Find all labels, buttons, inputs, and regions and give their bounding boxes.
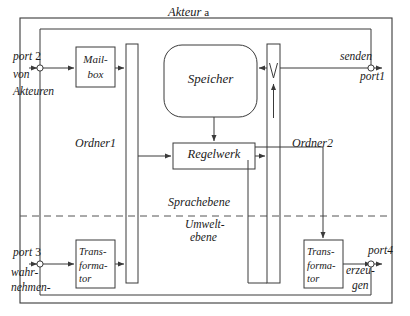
transformator-left-line1: Trans- (79, 246, 106, 257)
port2-action-line1: von (13, 68, 30, 80)
ordner1-bar (126, 44, 138, 283)
transformator-right-line2: forma- (307, 260, 336, 271)
port2-label: port2 (13, 50, 41, 62)
ordner2-funnel-marker (270, 63, 278, 78)
diagram-canvas: Akteura port2 von Akteuren Mail- box Spe… (0, 0, 410, 316)
port2-marker (37, 65, 43, 71)
port4-action-line2: gen (352, 279, 369, 291)
port3-label: port3 (13, 246, 41, 258)
port3-name-number: 3 (35, 246, 41, 258)
port3-action-line1: wahr- (11, 266, 38, 278)
mailbox-label-line1: Mail- (76, 54, 115, 66)
layer-upper-label: Sprachebene (168, 196, 230, 209)
port2-name-italic: port (13, 50, 32, 62)
transformator-right-line1: Trans- (307, 246, 334, 257)
diagram-title-upright: a (204, 6, 209, 18)
port3-action-line2: nehmen- (11, 281, 51, 293)
port1-action-label: senden (340, 50, 372, 62)
diagram-title: Akteura (168, 6, 209, 19)
ordner1-label: Ordner1 (75, 137, 116, 150)
port4-action-line1: erzeu- (346, 264, 375, 276)
layer-lower-label-line2: ebene (190, 231, 217, 243)
port4-name-label: port4 (368, 244, 393, 256)
diagram-title-italic: Akteur (168, 5, 201, 19)
port2-action-line2: Akteuren (13, 85, 54, 97)
port3-name-italic: port (13, 246, 32, 258)
port1-name-label: port1 (360, 70, 385, 82)
layer-lower-label-line1: Umwelt- (185, 218, 225, 230)
transformator-left-line3: tor (79, 273, 91, 284)
ordner2-label: Ordner2 (292, 137, 333, 150)
transformator-left-line2: forma- (79, 260, 108, 271)
mailbox-label-line2: box (76, 69, 115, 81)
speicher-label: Speicher (164, 72, 257, 86)
regelwerk-label: Regelwerk (173, 148, 255, 161)
port2-name-number: 2 (35, 50, 41, 62)
transformator-right-line3: tor (307, 273, 319, 284)
